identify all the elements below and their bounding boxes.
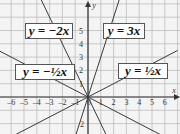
svg-text:2: 2 xyxy=(79,66,83,75)
svg-text:1: 1 xyxy=(79,80,83,89)
svg-text:3: 3 xyxy=(124,98,128,107)
svg-text:–4: –4 xyxy=(32,98,41,107)
svg-text:5: 5 xyxy=(79,27,83,36)
svg-text:3: 3 xyxy=(79,53,83,62)
svg-text:2: 2 xyxy=(112,98,116,107)
svg-text:–3: –3 xyxy=(45,98,54,107)
svg-text:0: 0 xyxy=(87,98,91,107)
svg-text:–2: –2 xyxy=(57,98,66,107)
label-y-neg2x: y = −2x xyxy=(25,23,73,39)
svg-text:4: 4 xyxy=(137,98,141,107)
svg-text:5: 5 xyxy=(150,98,154,107)
svg-text:6: 6 xyxy=(163,98,167,107)
svg-text:–5: –5 xyxy=(19,98,28,107)
svg-text:1: 1 xyxy=(99,98,103,107)
label-y-3x: y = 3x xyxy=(103,23,145,39)
label-y-neghalfx: y = −½x xyxy=(15,64,75,80)
label-y-halfx: y = ½x xyxy=(118,63,168,79)
svg-text:x: x xyxy=(171,86,176,95)
svg-text:–6: –6 xyxy=(6,98,15,107)
svg-text:–1: –1 xyxy=(70,98,79,107)
svg-text:4: 4 xyxy=(79,40,83,49)
svg-text:y: y xyxy=(91,1,96,10)
svg-text:2: 2 xyxy=(80,120,84,129)
